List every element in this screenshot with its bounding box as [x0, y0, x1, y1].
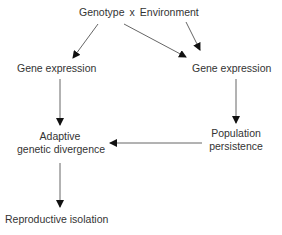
diagram-edges: [0, 0, 282, 235]
edge-genotype-to-left-expression: [73, 24, 98, 58]
gene-expression-left-node: Gene expression: [17, 62, 96, 75]
environment-label: Environment: [140, 6, 199, 18]
reproductive-isolation-node: Reproductive isolation: [5, 213, 108, 226]
adaptive-line1: Adaptive: [17, 130, 103, 143]
adaptive-line2: genetic divergence: [17, 143, 103, 156]
genotype-environment-node: GenotypexEnvironment: [79, 6, 199, 19]
edge-genotype-to-right-expression: [124, 24, 186, 57]
population-line2: persistence: [206, 140, 266, 153]
population-persistence-node: Population persistence: [206, 127, 266, 153]
interaction-operator: x: [130, 6, 135, 18]
edge-environment-to-right-expression: [186, 22, 200, 50]
genotype-label: Genotype: [79, 6, 125, 18]
gene-expression-right-node: Gene expression: [192, 62, 271, 75]
population-line1: Population: [206, 127, 266, 140]
adaptive-divergence-node: Adaptive genetic divergence: [17, 130, 103, 156]
